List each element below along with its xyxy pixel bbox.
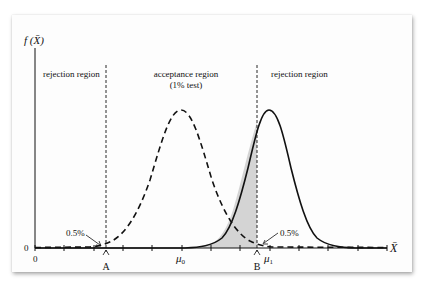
critical-value-A-label: A bbox=[102, 261, 110, 272]
y-axis-label: f (X̄) bbox=[24, 34, 44, 47]
right-tail-percent-label: 0.5% bbox=[280, 228, 299, 238]
x-axis-label: X̄ bbox=[389, 241, 398, 255]
null-distribution-curve bbox=[35, 110, 387, 248]
hypothesis-test-diagram: f (X̄) X̄ 0 0 rejection region acceptanc… bbox=[0, 0, 425, 301]
mu1-label: μ1 bbox=[263, 252, 274, 266]
right-tail-pointer-icon bbox=[264, 233, 278, 243]
acceptance-region-label: acceptance region bbox=[154, 69, 219, 79]
right-rejection-region-label: rejection region bbox=[271, 69, 328, 79]
origin-y-label: 0 bbox=[24, 243, 29, 253]
arrow-B-icon bbox=[254, 250, 260, 255]
critical-value-B-label: B bbox=[254, 261, 261, 272]
test-level-label: (1% test) bbox=[170, 80, 203, 90]
arrow-A-icon bbox=[103, 250, 109, 255]
alternative-distribution-curve bbox=[35, 110, 387, 248]
left-tail-pointer-icon bbox=[86, 235, 100, 245]
mu0-label: μ0 bbox=[175, 252, 186, 266]
left-rejection-region-label: rejection region bbox=[43, 69, 100, 79]
left-tail-percent-label: 0.5% bbox=[66, 228, 85, 238]
origin-x-label: 0 bbox=[33, 254, 38, 264]
